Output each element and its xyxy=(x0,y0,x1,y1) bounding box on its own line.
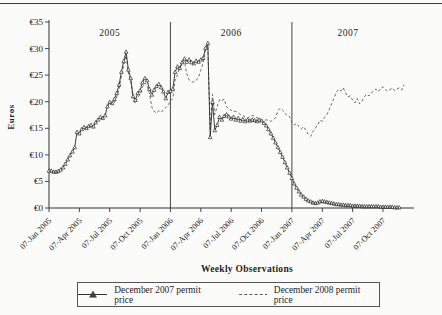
y-tick-label: €30 xyxy=(30,44,44,54)
legend-label-dec-2008: December 2008 permit price xyxy=(274,285,379,305)
x-tick-label: 07-Oct 2007 xyxy=(352,216,388,252)
x-tick-label: 07-Apr 2006 xyxy=(169,216,206,253)
x-tick-label: 07-Oct 2005 xyxy=(109,216,145,252)
document-page: €0€5€10€15€20€25€30€3507-Jan 200507-Apr … xyxy=(0,0,442,315)
y-axis: €0€5€10€15€20€25€30€35 xyxy=(30,17,50,213)
dashed-line-icon xyxy=(239,290,266,299)
solid-triangle-line-icon xyxy=(78,290,107,299)
y-tick-label: €0 xyxy=(34,203,44,213)
y-tick-label: €10 xyxy=(30,150,44,160)
legend-item-dec-2007: December 2007 permit price xyxy=(78,285,219,305)
y-tick-label: €20 xyxy=(30,97,44,107)
legend-item-dec-2008: December 2008 permit price xyxy=(239,285,379,305)
year-label: 2005 xyxy=(99,28,120,38)
y-axis-title-text: Euros xyxy=(6,104,16,129)
y-axis-title: Euros xyxy=(4,37,18,197)
y-tick-label: €5 xyxy=(34,176,44,186)
year-label: 2007 xyxy=(337,28,358,38)
x-axis: 07-Jan 200507-Apr 200507-Jul 200507-Oct … xyxy=(18,208,414,253)
series-dec-2007-line xyxy=(49,43,399,207)
x-tick-label: 07-Apr 2005 xyxy=(47,216,84,253)
series-dec-2008-line xyxy=(114,45,404,136)
y-tick-label: €35 xyxy=(30,17,44,27)
legend-label-dec-2007: December 2007 permit price xyxy=(114,285,219,305)
chart-legend: December 2007 permit price December 2008… xyxy=(77,282,380,307)
x-axis-title: Weekly Observations xyxy=(52,264,442,274)
x-tick-label: 07-Apr 2007 xyxy=(290,216,327,253)
year-label: 2006 xyxy=(221,28,242,38)
y-tick-label: €25 xyxy=(30,70,44,80)
y-tick-label: €15 xyxy=(30,123,44,133)
series-dec-2007-markers xyxy=(47,41,401,209)
x-tick-label: 07-Oct 2006 xyxy=(230,216,266,252)
